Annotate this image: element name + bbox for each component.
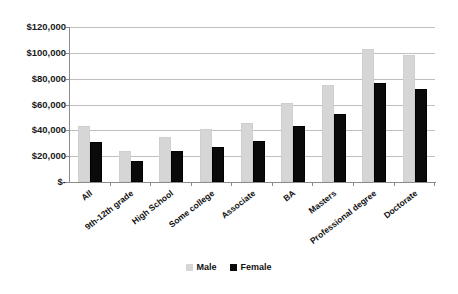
x-axis-label-slot: Professional degree [354, 186, 395, 266]
bar-female [415, 89, 427, 182]
bar-group [111, 27, 152, 182]
y-axis-tick-label: $80,000 [2, 74, 66, 84]
bar-male [119, 151, 131, 182]
bar-male [322, 85, 334, 182]
legend-item[interactable]: Male [186, 262, 216, 272]
bar-chart: $120,000$100,000$80,000$60,000$40,000$20… [0, 0, 458, 294]
y-axis-tick-label: $100,000 [2, 48, 66, 58]
x-axis-label-slot: Associate [232, 186, 273, 266]
chart-legend: MaleFemale [0, 262, 458, 272]
x-axis-label-slot: 9th-12th grade [111, 186, 152, 266]
x-axis-label-slot: Doctorate [395, 186, 436, 266]
legend-label: Male [196, 262, 216, 272]
y-axis-tick-label: $120,000 [2, 22, 66, 32]
bar-group [273, 27, 314, 182]
y-axis-tick-label: $20,000 [2, 151, 66, 161]
bar-group [192, 27, 233, 182]
y-axis-tick-label: $60,000 [2, 100, 66, 110]
y-axis-tick-label: $40,000 [2, 125, 66, 135]
male-swatch-icon [186, 264, 193, 271]
bar-female [334, 114, 346, 182]
bar-male [362, 49, 374, 182]
y-axis: $120,000$100,000$80,000$60,000$40,000$20… [0, 0, 66, 294]
bar-female [374, 83, 386, 182]
x-axis-labels: All9th-12th gradeHigh SchoolSome college… [70, 186, 435, 266]
y-axis-tick-label: $- [2, 177, 66, 187]
bar-group [354, 27, 395, 182]
bar-group [313, 27, 354, 182]
bar-female [90, 142, 102, 182]
x-axis-label-slot: Some college [192, 186, 233, 266]
bar-male [78, 126, 90, 182]
legend-item[interactable]: Female [230, 262, 271, 272]
x-axis-label-slot: BA [273, 186, 314, 266]
legend-label: Female [240, 262, 271, 272]
bar-group [70, 27, 111, 182]
bar-female [293, 126, 305, 182]
female-swatch-icon [230, 264, 237, 271]
